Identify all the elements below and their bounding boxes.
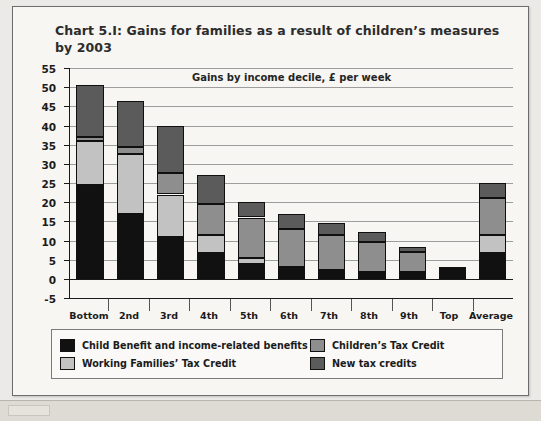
y-tick-label--5: -5 — [44, 293, 56, 305]
bar-segment-6th-s0 — [278, 267, 305, 279]
bar-slot-2nd — [110, 68, 150, 298]
chart-figure-panel: Chart 5.I: Gains for families as a resul… — [12, 6, 529, 396]
page-edge-artifact — [0, 400, 541, 421]
plot-area: 5550454035302520151050-5 Gains by income… — [69, 68, 513, 298]
bar-segment-bottom-s2 — [76, 137, 103, 141]
legend-swatch-childrens-tax-credit — [310, 339, 325, 352]
bar-6th[interactable] — [278, 68, 305, 298]
bar-segment-8th-s3 — [358, 232, 385, 243]
bar-segment-9th-s2 — [399, 252, 426, 272]
x-axis-label-top: Top — [429, 310, 469, 321]
legend-label-childrens-tax-credit: Children’s Tax Credit — [332, 340, 444, 351]
bar-segment-2nd-s3 — [117, 101, 144, 147]
bar-segment-2nd-s1 — [117, 154, 144, 213]
bar-segment-top-s0 — [439, 269, 466, 279]
x-axis-label-average: Average — [469, 310, 513, 321]
bar-9th[interactable] — [399, 68, 426, 298]
legend-item-child-benefit: Child Benefit and income-related benefit… — [60, 339, 310, 352]
y-tick-label-50: 50 — [41, 82, 56, 94]
y-tick-label-45: 45 — [41, 101, 56, 113]
legend-label-child-benefit: Child Benefit and income-related benefit… — [82, 340, 308, 351]
bar-segment-5th-s1 — [238, 258, 265, 264]
bar-segment-2nd-s2 — [117, 147, 144, 155]
legend-label-working-families-tax-credit: Working Families’ Tax Credit — [82, 358, 236, 369]
bar-7th[interactable] — [318, 68, 345, 298]
bar-segment-6th-s3 — [278, 214, 305, 229]
legend-item-working-families-tax-credit: Working Families’ Tax Credit — [60, 357, 310, 370]
bar-segment-2nd-s0 — [117, 214, 144, 279]
x-axis-label-5th: 5th — [229, 310, 269, 321]
legend-swatch-working-families-tax-credit — [60, 357, 75, 370]
chart-title: Chart 5.I: Gains for families as a resul… — [55, 23, 515, 56]
y-tick-label-10: 10 — [41, 236, 56, 248]
bar-segment-bottom-s0 — [76, 185, 103, 279]
bar-segment-average-s0 — [479, 253, 506, 279]
y-tick-label-40: 40 — [41, 121, 56, 133]
bar-5th[interactable] — [238, 68, 265, 298]
bar-segment-3rd-s0 — [157, 237, 184, 279]
bar-segment-7th-s3 — [318, 223, 345, 235]
bar-average[interactable] — [479, 68, 506, 298]
x-axis-label-6th: 6th — [269, 310, 309, 321]
bar-slot-3rd — [151, 68, 191, 298]
x-axis-label-2nd: 2nd — [109, 310, 149, 321]
y-tick-label-0: 0 — [49, 274, 56, 286]
bar-segment-4th-s0 — [197, 253, 224, 279]
bar-segment-3rd-s1 — [157, 195, 184, 237]
legend-label-new-tax-credits: New tax credits — [332, 358, 417, 369]
x-axis-label-8th: 8th — [349, 310, 389, 321]
bar-4th[interactable] — [197, 68, 224, 298]
x-axis-label-4th: 4th — [189, 310, 229, 321]
bar-slot-9th — [392, 68, 432, 298]
bar-slot-6th — [271, 68, 311, 298]
bar-segment-5th-s2 — [238, 218, 265, 258]
x-axis-label-7th: 7th — [309, 310, 349, 321]
bar-series-container — [70, 68, 513, 298]
y-tick-label-5: 5 — [49, 255, 56, 267]
chart-legend: Child Benefit and income-related benefit… — [51, 329, 503, 379]
x-axis-label-3rd: 3rd — [149, 310, 189, 321]
bar-slot-5th — [231, 68, 271, 298]
bar-segment-8th-s2 — [358, 242, 385, 272]
y-tick-label-20: 20 — [41, 197, 56, 209]
bar-segment-9th-s0 — [399, 272, 426, 279]
bar-segment-3rd-s2 — [157, 173, 184, 194]
bar-segment-5th-s3 — [238, 202, 265, 217]
bar-bottom[interactable] — [76, 68, 103, 298]
bar-slot-top — [432, 68, 472, 298]
bar-segment-9th-s3 — [399, 247, 426, 252]
bar-segment-6th-s2 — [278, 229, 305, 267]
bar-slot-bottom — [70, 68, 110, 298]
bar-slot-8th — [352, 68, 392, 298]
bar-segment-average-s2 — [479, 198, 506, 234]
bar-segment-bottom-s3 — [76, 85, 103, 137]
bar-segment-bottom-s1 — [76, 141, 103, 185]
bar-segment-4th-s3 — [197, 175, 224, 204]
bar-segment-average-s1 — [479, 235, 506, 253]
bar-segment-top-s3 — [439, 267, 466, 270]
bar-8th[interactable] — [358, 68, 385, 298]
legend-swatch-new-tax-credits — [310, 357, 325, 370]
legend-item-childrens-tax-credit: Children’s Tax Credit — [310, 339, 444, 352]
y-tick-label-25: 25 — [41, 178, 56, 190]
bar-top[interactable] — [439, 68, 466, 298]
chart-subtitle: Gains by income decile, £ per week — [70, 72, 513, 83]
plot-wrapper: 5550454035302520151050-5 Gains by income… — [27, 60, 517, 310]
legend-item-new-tax-credits: New tax credits — [310, 357, 417, 370]
y-tick-label-35: 35 — [41, 140, 56, 152]
x-axis-label-9th: 9th — [389, 310, 429, 321]
legend-swatch-child-benefit — [60, 339, 75, 352]
bar-segment-7th-s0 — [318, 270, 345, 279]
bar-segment-4th-s1 — [197, 235, 224, 253]
bar-3rd[interactable] — [157, 68, 184, 298]
bar-2nd[interactable] — [117, 68, 144, 298]
bar-slot-7th — [312, 68, 352, 298]
legend-row-1: Child Benefit and income-related benefit… — [60, 336, 494, 354]
legend-row-2: Working Families’ Tax Credit New tax cre… — [60, 354, 494, 372]
bar-segment-8th-s0 — [358, 272, 385, 279]
bar-slot-average — [473, 68, 513, 298]
y-tick-label-30: 30 — [41, 159, 56, 171]
x-axis-labels: Bottom2nd3rd4th5th6th7th8th9thTopAverage — [69, 310, 513, 321]
bar-segment-4th-s2 — [197, 204, 224, 235]
